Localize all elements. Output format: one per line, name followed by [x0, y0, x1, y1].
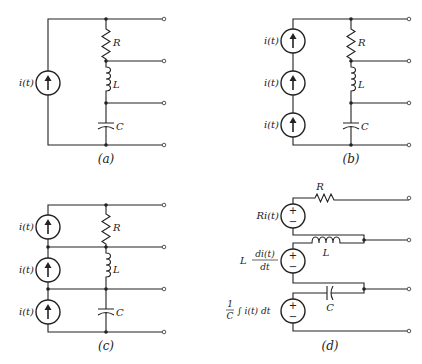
- svg-text:+: +: [289, 250, 297, 261]
- source-label-num: di(t): [255, 249, 275, 259]
- circuit-figure: i(t) R L C (a) i(t) i(t) i(t) R L C (b): [0, 0, 422, 364]
- terminal: [162, 101, 166, 105]
- inductor-label: L: [112, 79, 120, 90]
- voltage-source-icon: + −: [281, 204, 305, 228]
- current-source-icon: [281, 29, 305, 53]
- resistor-label: R: [112, 37, 121, 48]
- svg-text:+: +: [289, 205, 297, 216]
- source-label-den: C: [227, 311, 234, 321]
- panel-b: i(t) i(t) i(t) R L C (b): [264, 17, 411, 166]
- panel-caption: (c): [98, 339, 114, 353]
- voltage-source-icon: + −: [281, 249, 305, 273]
- current-source-icon: [36, 215, 60, 239]
- inductor-label: L: [322, 247, 330, 258]
- terminal: [162, 59, 166, 63]
- terminal: [407, 59, 411, 63]
- terminal: [407, 238, 411, 242]
- terminal: [407, 143, 411, 147]
- resistor-label: R: [112, 222, 121, 233]
- capacitor-label: C: [361, 121, 369, 132]
- source-label: i(t): [19, 306, 34, 317]
- capacitor-c: [98, 103, 114, 145]
- terminal: [162, 143, 166, 147]
- resistor-label: R: [357, 37, 366, 48]
- source-label: i(t): [19, 221, 34, 232]
- source-label: i(t): [19, 77, 34, 88]
- inductor-label: L: [112, 264, 120, 275]
- terminal: [162, 203, 166, 207]
- capacitor-label: C: [116, 121, 124, 132]
- inductor-l: [106, 61, 111, 103]
- terminal: [162, 287, 166, 291]
- source-label: Ri(t): [255, 210, 279, 221]
- svg-text:−: −: [289, 311, 297, 322]
- terminal: [162, 17, 166, 21]
- source-label-num: 1: [227, 299, 233, 309]
- inductor-label: L: [357, 79, 365, 90]
- terminal: [162, 245, 166, 249]
- source-label: i(t): [264, 119, 279, 130]
- current-source-icon: [36, 300, 60, 324]
- source-label: i(t): [264, 77, 279, 88]
- source-label-prefix: L: [239, 255, 247, 266]
- current-source-icon: [281, 71, 305, 95]
- source-label: i(t): [264, 35, 279, 46]
- terminal: [407, 17, 411, 21]
- terminal: [407, 329, 411, 333]
- inductor-l: [351, 61, 356, 103]
- source-label-integral: ∫ i(t) dt: [237, 306, 271, 316]
- resistor-r: [102, 19, 110, 61]
- resistor-r: [293, 194, 409, 204]
- panel-d: + − + − + − Ri(t) L di(t) dt 1 C ∫ i(t) …: [226, 181, 411, 353]
- source-label: i(t): [19, 264, 34, 275]
- svg-text:+: +: [289, 300, 297, 311]
- resistor-label: R: [315, 181, 324, 192]
- terminal: [407, 287, 411, 291]
- capacitor-c: [343, 103, 359, 145]
- capacitor-label: C: [326, 302, 334, 313]
- current-source-icon: [281, 113, 305, 137]
- panel-a: i(t) R L C (a): [19, 17, 166, 166]
- current-source-icon: [36, 71, 60, 95]
- inductor-l: [106, 247, 111, 289]
- resistor-r: [347, 19, 355, 61]
- terminal: [162, 330, 166, 334]
- current-source-icon: [36, 258, 60, 282]
- source-label-den: dt: [260, 262, 270, 272]
- terminal: [407, 101, 411, 105]
- resistor-r: [102, 205, 110, 247]
- voltage-source-icon: + −: [281, 299, 305, 323]
- capacitor-c: [98, 289, 114, 332]
- capacitor-c: [293, 286, 364, 300]
- panel-c: i(t) i(t) i(t) R L C (c): [19, 203, 166, 353]
- terminal: [407, 196, 411, 200]
- panel-caption: (d): [321, 339, 338, 353]
- svg-text:−: −: [289, 216, 297, 227]
- svg-text:−: −: [289, 261, 297, 272]
- capacitor-label: C: [116, 307, 124, 318]
- panel-caption: (a): [98, 152, 115, 166]
- panel-caption: (b): [342, 152, 359, 166]
